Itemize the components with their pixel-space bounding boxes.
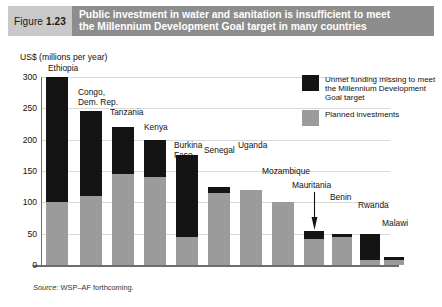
- legend-swatch-unmet-icon: [302, 75, 319, 91]
- bar-label-kenya: Kenya: [144, 123, 168, 133]
- bar-rwanda[interactable]: [360, 234, 380, 265]
- legend-item-planned: Planned investments: [302, 110, 438, 126]
- bar-segment-unmet: [144, 140, 166, 178]
- bar-label-malawi: Malawi: [382, 219, 408, 229]
- bar-segment-unmet: [176, 155, 198, 236]
- bar-segment-planned: [176, 237, 198, 265]
- figure-header: Figure 1.23 Public investment in water a…: [8, 6, 434, 36]
- bar-congo-dem-rep[interactable]: [80, 111, 102, 265]
- source-text: WSP–AF forthcoming.: [61, 283, 134, 292]
- bar-label-uganda: Uganda: [238, 141, 267, 151]
- figure-container: Figure 1.23 Public investment in water a…: [0, 0, 442, 307]
- bar-label-tanzania: Tanzania: [110, 108, 144, 118]
- legend-item-unmet: Unmet funding missing to meet the Millen…: [302, 75, 438, 103]
- bar-label-mozambique: Mozambique: [262, 167, 310, 177]
- legend-label-planned: Planned investments: [325, 110, 399, 119]
- bar-segment-unmet: [46, 77, 68, 202]
- bar-segment-planned: [80, 196, 102, 265]
- bar-segment-planned: [332, 237, 352, 265]
- y-tick-label-100: 100: [23, 197, 37, 207]
- bar-segment-planned: [112, 174, 134, 265]
- bar-segment-planned: [272, 202, 294, 265]
- bar-burkina-faso[interactable]: [176, 155, 198, 265]
- bar-ethiopia[interactable]: [46, 77, 68, 265]
- figure-title-line-1: Public investment in water and sanitatio…: [79, 9, 390, 21]
- bar-uganda[interactable]: [240, 190, 262, 265]
- x-axis-line: [33, 265, 399, 267]
- bar-label-rwanda: Rwanda: [358, 201, 389, 211]
- y-tick-label-50: 50: [27, 229, 37, 239]
- bar-segment-unmet: [304, 231, 324, 239]
- source-note: Source: WSP–AF forthcoming.: [33, 283, 134, 292]
- bar-segment-unmet: [80, 111, 102, 196]
- figure-number-tag: Figure 1.23: [8, 6, 72, 36]
- bar-segment-unmet: [360, 234, 380, 260]
- figure-tag-number: 1.23: [46, 16, 66, 27]
- bar-mozambique[interactable]: [272, 202, 294, 265]
- legend: Unmet funding missing to meet the Millen…: [302, 75, 438, 133]
- bar-label-senegal: Senegal: [204, 146, 235, 156]
- bar-kenya[interactable]: [144, 140, 166, 265]
- bar-segment-planned: [240, 190, 262, 265]
- bar-label-mauritania: Mauritania: [292, 181, 331, 191]
- legend-label-unmet: Unmet funding missing to meet the Millen…: [325, 75, 438, 103]
- bar-benin[interactable]: [332, 234, 352, 265]
- figure-title-band: Public investment in water and sanitatio…: [72, 6, 434, 36]
- bar-tanzania[interactable]: [112, 127, 134, 265]
- bar-label-benin: Benin: [330, 193, 351, 203]
- bar-label-ethiopia: Ethiopia: [48, 64, 78, 74]
- bar-segment-planned: [46, 202, 68, 265]
- y-tick-label-250: 250: [23, 103, 37, 113]
- y-tick-label-0: 0: [32, 260, 37, 270]
- bar-segment-unmet: [112, 127, 134, 174]
- figure-title-line-2: the Millennium Development Goal target i…: [79, 21, 390, 33]
- bar-segment-planned: [304, 239, 324, 265]
- bar-segment-planned: [384, 260, 404, 265]
- bar-label-congo-dem-rep: Congo,Dem. Rep.: [78, 88, 118, 107]
- figure-tag-label: Figure: [14, 16, 43, 27]
- y-tick-label-150: 150: [23, 166, 37, 176]
- bar-label-burkina-faso: BurkinaFaso: [174, 141, 202, 160]
- bar-senegal[interactable]: [208, 187, 230, 265]
- y-tick-label-200: 200: [23, 135, 37, 145]
- bar-segment-planned: [360, 260, 380, 265]
- bar-malawi[interactable]: [384, 257, 404, 265]
- y-tick-label-300: 300: [23, 72, 37, 82]
- bar-mauritania[interactable]: [304, 231, 324, 265]
- bar-segment-planned: [144, 177, 166, 265]
- legend-swatch-planned-icon: [302, 110, 319, 126]
- annotation-arrow-mauritania: [311, 192, 318, 230]
- source-prefix: Source:: [33, 283, 58, 292]
- y-axis-unit-label: US$ (millions per year): [20, 52, 107, 62]
- bar-segment-planned: [208, 193, 230, 265]
